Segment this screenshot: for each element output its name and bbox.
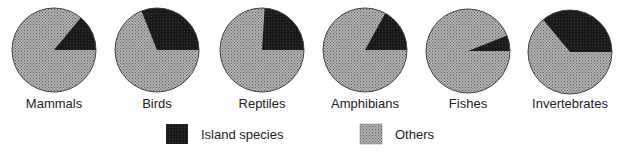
slice-island-species [262,8,304,50]
pie-mammals: Mammals [12,8,96,111]
legend-label-others: Others [395,127,435,142]
legend-swatch-others [360,124,382,144]
pie-label: Fishes [449,96,488,111]
pie-reptiles: Reptiles [220,8,304,111]
pie-birds: Birds [115,8,199,111]
pie-label: Invertebrates [532,96,608,111]
pie-chart-grid: MammalsBirdsReptilesAmphibiansFishesInve… [0,0,623,156]
pie-invertebrates: Invertebrates [528,10,612,111]
legend-swatch-island [166,124,188,144]
pie-label: Birds [142,96,172,111]
pie-fishes: Fishes [426,9,510,111]
pie-label: Reptiles [239,96,286,111]
legend: Island species Others [166,124,435,144]
pie-amphibians: Amphibians [323,8,407,111]
pie-label: Mammals [26,96,83,111]
pie-label: Amphibians [331,96,399,111]
legend-label-island: Island species [201,127,284,142]
